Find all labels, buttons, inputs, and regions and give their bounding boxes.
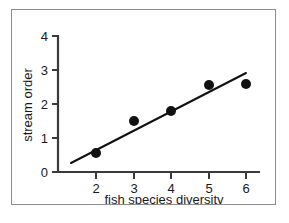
- y-tick-label-4: 4: [41, 29, 48, 44]
- data-point: [91, 148, 101, 158]
- data-point: [204, 80, 214, 90]
- figure-frame: 4 3 2 1 0 2 3 4 5 6 fish species diversi…: [11, 9, 276, 205]
- data-point: [129, 116, 139, 126]
- y-axis-title: stream order: [20, 67, 35, 141]
- y-tick-label-3: 3: [41, 63, 48, 78]
- data-point: [166, 106, 176, 116]
- x-tick-label-2: 2: [92, 181, 99, 196]
- x-tick-label-6: 6: [242, 181, 249, 196]
- x-axis-title: fish species diversity: [104, 192, 224, 204]
- y-tick-label-0: 0: [41, 165, 48, 180]
- y-tick-label-1: 1: [41, 131, 48, 146]
- data-point: [241, 79, 251, 89]
- y-tick-label-2: 2: [41, 97, 48, 112]
- scatter-plot: 4 3 2 1 0 2 3 4 5 6 fish species diversi…: [12, 10, 275, 204]
